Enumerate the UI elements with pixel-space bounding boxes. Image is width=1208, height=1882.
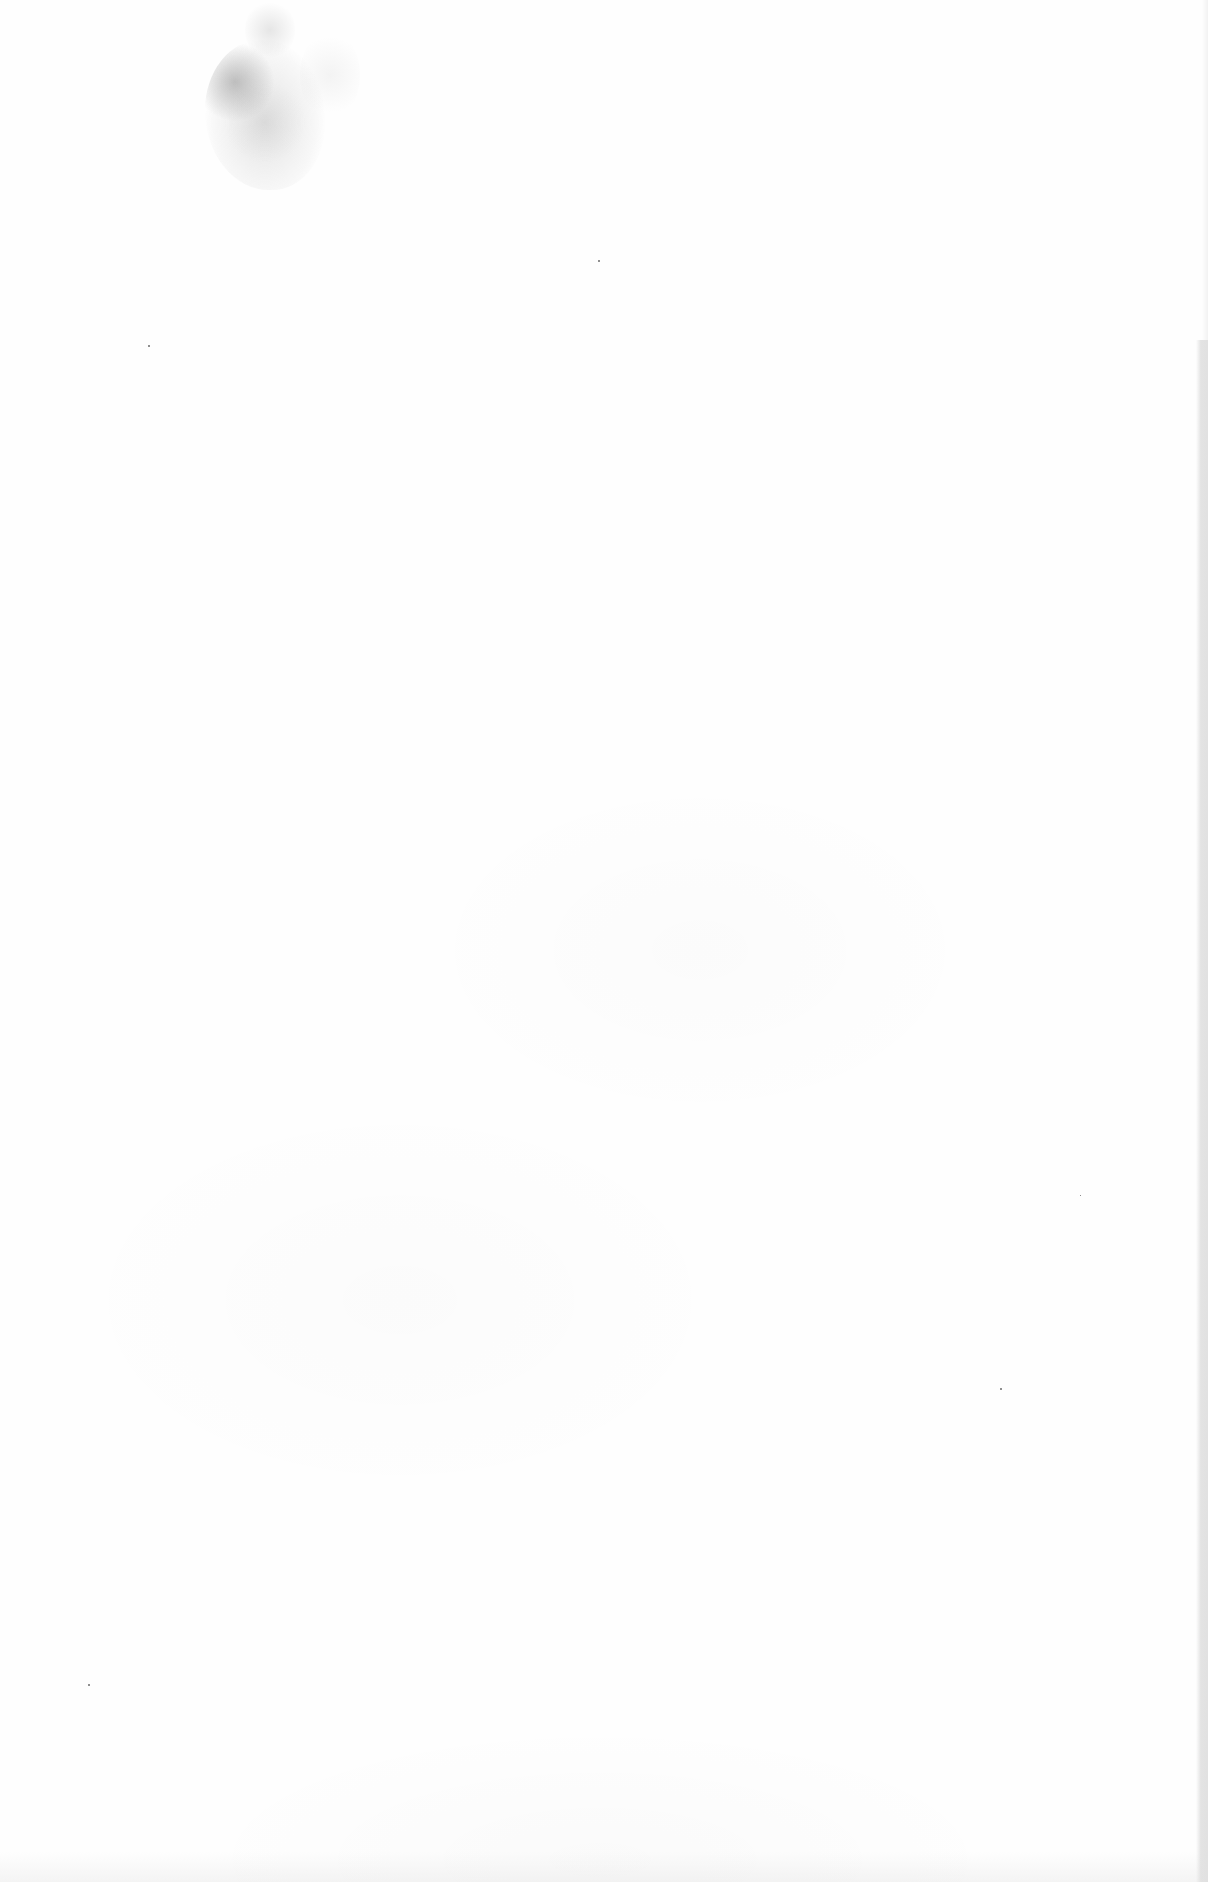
stain-smudge [205,0,345,200]
page-bottom-shade [0,1852,1208,1882]
paper-show-through [0,0,1208,1882]
stain-smudge-main [205,40,325,190]
page-edge-shadow-top [1202,0,1208,340]
stain-smudge-top [245,0,295,60]
stain-smudge-halo [300,30,360,120]
dust-speck [1080,1195,1081,1196]
dust-speck [1000,1388,1002,1390]
dust-speck [88,1684,90,1686]
page-edge-shadow [1196,340,1208,1882]
scanned-blank-page [0,0,1208,1882]
dust-speck [598,260,600,262]
dust-speck [148,345,150,347]
